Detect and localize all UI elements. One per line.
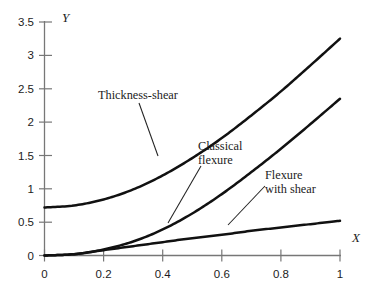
y-tick-label: 0 xyxy=(28,250,34,262)
x-tick-label: 0 xyxy=(41,268,47,280)
y-axis-tick-labels: 0 0.5 1 1.5 2 2.5 3 3.5 xyxy=(18,16,34,262)
leader-line-classical-flexure xyxy=(168,166,201,223)
annotation-thickness-shear: Thickness-shear xyxy=(98,88,178,102)
curve-flexure-with-shear xyxy=(45,221,341,256)
chart-canvas: 0 0.5 1 1.5 2 2.5 3 3.5 0 0.2 0.4 0.6 0.… xyxy=(0,0,375,294)
x-tick-label: 0.6 xyxy=(214,268,230,280)
annotation-label-classical-flexure-line2: flexure xyxy=(198,153,233,167)
annotation-label-classical-flexure-line1: Classical xyxy=(198,139,243,153)
x-tick-label: 1 xyxy=(337,268,343,280)
series-curves-rendered xyxy=(45,39,341,256)
chart-figure: 0 0.5 1 1.5 2 2.5 3 3.5 0 0.2 0.4 0.6 0.… xyxy=(0,0,375,294)
y-tick-label: 1 xyxy=(28,183,34,195)
annotation-flexure-with-shear: Flexure with shear xyxy=(265,168,316,196)
y-axis-title: Y xyxy=(62,10,71,25)
x-axis-title: X xyxy=(351,230,361,245)
annotation-label-flexure-with-shear-line1: Flexure xyxy=(265,168,303,182)
annotation-classical-flexure: Classical flexure xyxy=(198,139,243,167)
annotation-label-flexure-with-shear-line2: with shear xyxy=(265,182,316,196)
annotation-label-thickness-shear: Thickness-shear xyxy=(98,88,178,102)
y-tick-label: 0.5 xyxy=(18,216,34,228)
x-tick-label: 0.4 xyxy=(155,268,172,280)
y-tick-label: 3.5 xyxy=(18,16,34,28)
x-axis-tick-labels: 0 0.2 0.4 0.6 0.8 1 xyxy=(41,268,343,280)
leader-line-thickness-shear xyxy=(139,103,158,156)
x-tick-label: 0.8 xyxy=(273,268,289,280)
y-tick-label: 2.5 xyxy=(18,83,34,95)
y-tick-label: 2 xyxy=(28,116,34,128)
y-axis-ticks xyxy=(39,22,52,256)
y-tick-label: 3 xyxy=(28,49,34,61)
leader-line-flexure-with-shear xyxy=(228,186,265,225)
x-tick-label: 0.2 xyxy=(96,268,112,280)
axes-group xyxy=(45,21,342,256)
y-tick-label: 1.5 xyxy=(18,150,34,162)
